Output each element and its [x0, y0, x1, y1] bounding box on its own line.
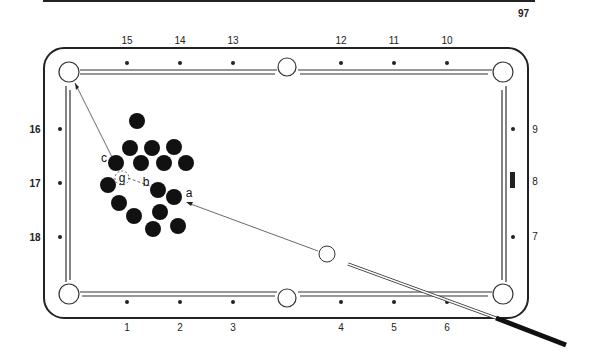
pool-table-diagram [0, 0, 593, 363]
pocket-bottom-middle [278, 289, 296, 307]
path-to-pocket [75, 83, 112, 157]
diamond-label: 18 [29, 232, 40, 243]
diamond-label: 13 [227, 35, 238, 46]
diamond-label: 1 [124, 322, 130, 333]
diamond-label: 17 [29, 178, 40, 189]
ball-label-g: g [119, 171, 126, 185]
pocket-top-right [493, 62, 513, 82]
diamond-label: 4 [338, 322, 344, 333]
pocket-bottom-right [493, 284, 513, 304]
cushions [66, 70, 506, 296]
right-rail-marker [510, 172, 515, 188]
diamond-label: 12 [335, 35, 346, 46]
diamond-label: 14 [174, 35, 185, 46]
diamond-label: 2 [177, 322, 183, 333]
pocket-bottom-left [59, 284, 79, 304]
ball-label-a: a [186, 186, 193, 200]
diamond-label: 8 [532, 176, 538, 187]
diamond-label: 15 [121, 35, 132, 46]
cue-ball-path [188, 203, 318, 251]
diamond-label: 9 [532, 124, 538, 135]
diamond-label: 7 [532, 231, 538, 242]
cue-ball [319, 246, 335, 262]
cue-butt [496, 318, 566, 345]
pocket-top-left [59, 62, 79, 82]
diamond-label: 3 [230, 322, 236, 333]
diamonds [58, 61, 515, 304]
ball-label-b: b [143, 175, 150, 189]
diamond-label: 6 [444, 322, 450, 333]
diamond-label: 11 [389, 35, 399, 46]
diamond-label: 5 [391, 322, 397, 333]
diamond-label: 16 [29, 124, 40, 135]
ball-label-c: c [101, 151, 107, 165]
pocket-top-middle [278, 58, 296, 76]
diamond-label: 10 [441, 35, 452, 46]
